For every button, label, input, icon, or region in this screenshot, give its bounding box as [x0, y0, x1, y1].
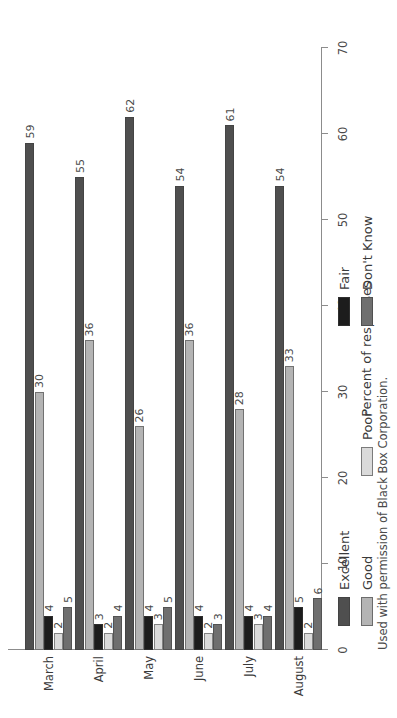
category-label-june: June: [192, 656, 206, 704]
category-label-july: July: [242, 656, 256, 704]
bar-value-label: 3: [211, 613, 224, 624]
bar-row: 2: [54, 48, 63, 650]
bar-row: 26: [135, 48, 144, 650]
bar-row: 3: [154, 48, 163, 650]
legend-swatch-icon: [338, 597, 350, 626]
bar-group: 5930425: [25, 48, 73, 650]
bar[interactable]: [113, 616, 122, 650]
bar-row: 30: [35, 48, 44, 650]
bar-value-label: 6: [311, 587, 324, 598]
bar-row: 62: [125, 48, 134, 650]
bar-row: 33: [285, 48, 294, 650]
plot-area: 010203040506070 593042555363246226435543…: [22, 48, 322, 650]
legend-label: Fair: [337, 267, 352, 290]
legend-swatch-icon: [361, 597, 373, 626]
bar-row: 2: [304, 48, 313, 650]
legend-label: Excellent: [337, 531, 352, 590]
legend-label: Poor: [360, 411, 375, 440]
bar-value-label: 5: [61, 596, 74, 607]
bar-row: 61: [225, 48, 234, 650]
bar-row: 36: [185, 48, 194, 650]
bar[interactable]: [254, 624, 263, 650]
bar-row: 4: [194, 48, 203, 650]
axis-tick-label: 70: [336, 41, 350, 56]
bar[interactable]: [85, 340, 94, 650]
bar[interactable]: [313, 598, 322, 650]
bar-row: 5: [163, 48, 172, 650]
bar-row: 4: [44, 48, 53, 650]
bar[interactable]: [225, 125, 234, 650]
bar-group: 6226435: [125, 48, 173, 650]
bar-row: 3: [254, 48, 263, 650]
bar-row: 4: [113, 48, 122, 650]
bar[interactable]: [125, 117, 134, 650]
legend-swatch-icon: [361, 297, 373, 326]
bar-row: 3: [213, 48, 222, 650]
bar-value-label: 4: [111, 605, 124, 616]
bar[interactable]: [75, 177, 84, 650]
category-label-april: April: [92, 656, 106, 704]
bar[interactable]: [263, 616, 272, 650]
bar-group: 5536324: [75, 48, 123, 650]
bar[interactable]: [213, 624, 222, 650]
bar-group: 5433526: [275, 48, 323, 650]
bar[interactable]: [275, 186, 284, 650]
bar-row: 55: [75, 48, 84, 650]
bar-row: 5: [294, 48, 303, 650]
legend-item-don-t-know[interactable]: Don't Know: [360, 216, 375, 326]
bar[interactable]: [185, 340, 194, 650]
legend-swatch-icon: [361, 447, 373, 476]
bar-row: 4: [263, 48, 272, 650]
bar[interactable]: [135, 426, 144, 650]
category-label-march: March: [42, 656, 56, 704]
bar-row: 54: [175, 48, 184, 650]
bar-row: 3: [94, 48, 103, 650]
rotated-figure-container: 010203040506070 593042555363246226435543…: [0, 0, 397, 718]
legend-item-fair[interactable]: Fair: [337, 267, 352, 326]
legend-swatch-icon: [338, 297, 350, 326]
legend-label: Good: [360, 556, 375, 590]
bar[interactable]: [175, 186, 184, 650]
bar[interactable]: [304, 633, 313, 650]
legend-item-good[interactable]: Good: [360, 556, 375, 626]
bar[interactable]: [25, 143, 34, 650]
bar-row: 59: [25, 48, 34, 650]
bar-group: 5436423: [175, 48, 223, 650]
chart-legend: ExcellentFairGoodPoorDon't Know: [336, 66, 375, 626]
bar-row: 2: [204, 48, 213, 650]
bar-row: 36: [85, 48, 94, 650]
bar-group: 6128434: [225, 48, 273, 650]
legend-row: GoodPoorDon't Know: [359, 66, 375, 626]
chart-figure: 010203040506070 593042555363246226435543…: [0, 0, 397, 718]
bar[interactable]: [163, 607, 172, 650]
bar[interactable]: [104, 633, 113, 650]
bar-row: 4: [244, 48, 253, 650]
bar-value-label: 4: [261, 605, 274, 616]
bar[interactable]: [54, 633, 63, 650]
legend-item-excellent[interactable]: Excellent: [337, 531, 352, 626]
category-label-august: August: [292, 656, 306, 704]
bar-row: 4: [144, 48, 153, 650]
category-label-may: May: [142, 656, 156, 704]
bar[interactable]: [154, 624, 163, 650]
bar-row: 28: [235, 48, 244, 650]
bar-row: 2: [104, 48, 113, 650]
bar-row: 6: [313, 48, 322, 650]
bar-row: 5: [63, 48, 72, 650]
bar[interactable]: [204, 633, 213, 650]
bar-value-label: 5: [161, 596, 174, 607]
bar[interactable]: [63, 607, 72, 650]
figure-caption: Used with permission of Black Box Corpor…: [376, 377, 390, 650]
axis-tick-label: 0: [336, 646, 350, 653]
legend-item-poor[interactable]: Poor: [360, 411, 375, 476]
legend-row: ExcellentFair: [336, 66, 352, 626]
legend-label: Don't Know: [360, 216, 375, 290]
bar[interactable]: [285, 366, 294, 650]
